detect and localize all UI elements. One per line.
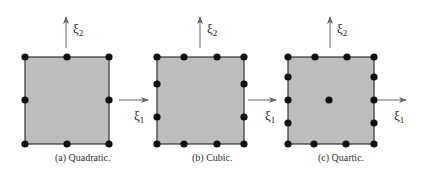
xi1-label: ξ1 bbox=[134, 108, 144, 125]
caption-cubic: (b) Cubic. bbox=[192, 152, 233, 163]
interior-node bbox=[325, 96, 332, 103]
xi1-label: ξ1 bbox=[265, 108, 275, 125]
panel-quartic: ξ2 ξ1 bbox=[284, 17, 406, 148]
caption-quadratic: (a) Quadratic. bbox=[55, 152, 111, 163]
xi2-label: ξ2 bbox=[207, 21, 217, 38]
xi1-label: ξ1 bbox=[394, 108, 404, 125]
element-diagram: ξ2 ξ1 ξ2 ξ1 ξ2 ξ1 bbox=[0, 0, 427, 177]
panel-cubic: ξ2 ξ1 bbox=[153, 17, 276, 148]
element-square bbox=[157, 57, 244, 144]
xi2-label: ξ2 bbox=[337, 21, 347, 38]
xi2-label: ξ2 bbox=[73, 21, 83, 38]
panel-quadratic: ξ2 ξ1 bbox=[21, 17, 148, 148]
caption-quartic: (c) Quartic. bbox=[318, 152, 364, 163]
element-square bbox=[25, 57, 109, 144]
